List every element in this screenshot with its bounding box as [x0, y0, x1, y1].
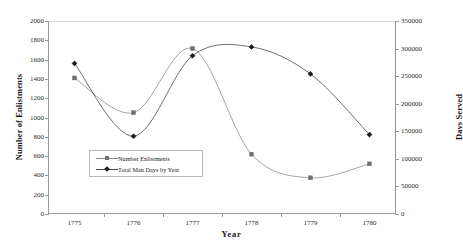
y-axis-left-tick-label: 0: [2, 210, 44, 218]
x-axis-title: Year: [0, 229, 463, 239]
x-axis-tick-label: 1777: [171, 219, 215, 227]
legend-label-enlistments: Number Enlistments: [118, 155, 170, 162]
y-axis-right-tick-mark: [395, 214, 399, 215]
y-axis-right-tick-label: 200000: [401, 100, 445, 108]
legend-label-mandays: Total Man Days by Year: [118, 166, 179, 173]
x-axis-tick-label: 1778: [229, 219, 273, 227]
y-axis-left-tick-label: 200: [2, 191, 44, 199]
diamond-marker-icon: [96, 164, 118, 175]
data-point-square: [308, 176, 312, 180]
data-point-diamond: [131, 134, 136, 139]
data-point-square: [367, 162, 371, 166]
y-axis-right-tick-label: 0: [401, 210, 445, 218]
series-line-mandays: [75, 44, 370, 136]
data-point-square: [73, 76, 77, 80]
x-axis-tick-label: 1775: [53, 219, 97, 227]
y-axis-left-tick-mark: [45, 214, 49, 215]
y-axis-left-tick-label: 1000: [2, 114, 44, 122]
y-axis-right-tick-label: 150000: [401, 127, 445, 135]
x-axis-tick-label: 1776: [112, 219, 156, 227]
y-axis-right-tick-label: 350000: [401, 17, 445, 25]
x-axis-tick-label: 1779: [288, 219, 332, 227]
data-point-diamond: [249, 44, 254, 49]
y-axis-left-tick-label: 1200: [2, 94, 44, 102]
y-axis-left-tick-label: 1800: [2, 36, 44, 44]
y-axis-left-tick-label: 400: [2, 171, 44, 179]
data-point-square: [132, 111, 136, 115]
data-point-square: [191, 47, 195, 51]
chart-legend: Number Enlistments Total Man Days by Yea…: [89, 150, 203, 177]
y-axis-left-tick-label: 1600: [2, 56, 44, 64]
y-axis-right-title: Days Served: [454, 62, 463, 172]
y-axis-right-tick-label: 300000: [401, 45, 445, 53]
y-axis-left-tick-label: 1400: [2, 75, 44, 83]
square-marker-icon: [96, 153, 118, 164]
legend-item-enlistments: Number Enlistments: [96, 153, 198, 164]
y-axis-left-tick-label: 600: [2, 152, 44, 160]
y-axis-left-tick-label: 2000: [2, 17, 44, 25]
y-axis-right-tick-label: 250000: [401, 72, 445, 80]
y-axis-right-tick-label: 100000: [401, 155, 445, 163]
chart-figure: Number of Enlistments Days Served Year 0…: [0, 0, 463, 247]
data-series-layer: [48, 21, 396, 214]
data-point-square: [249, 152, 253, 156]
x-axis-tick-label: 1780: [347, 219, 391, 227]
y-axis-right-tick-label: 50000: [401, 182, 445, 190]
legend-item-mandays: Total Man Days by Year: [96, 164, 198, 175]
y-axis-left-tick-label: 800: [2, 133, 44, 141]
